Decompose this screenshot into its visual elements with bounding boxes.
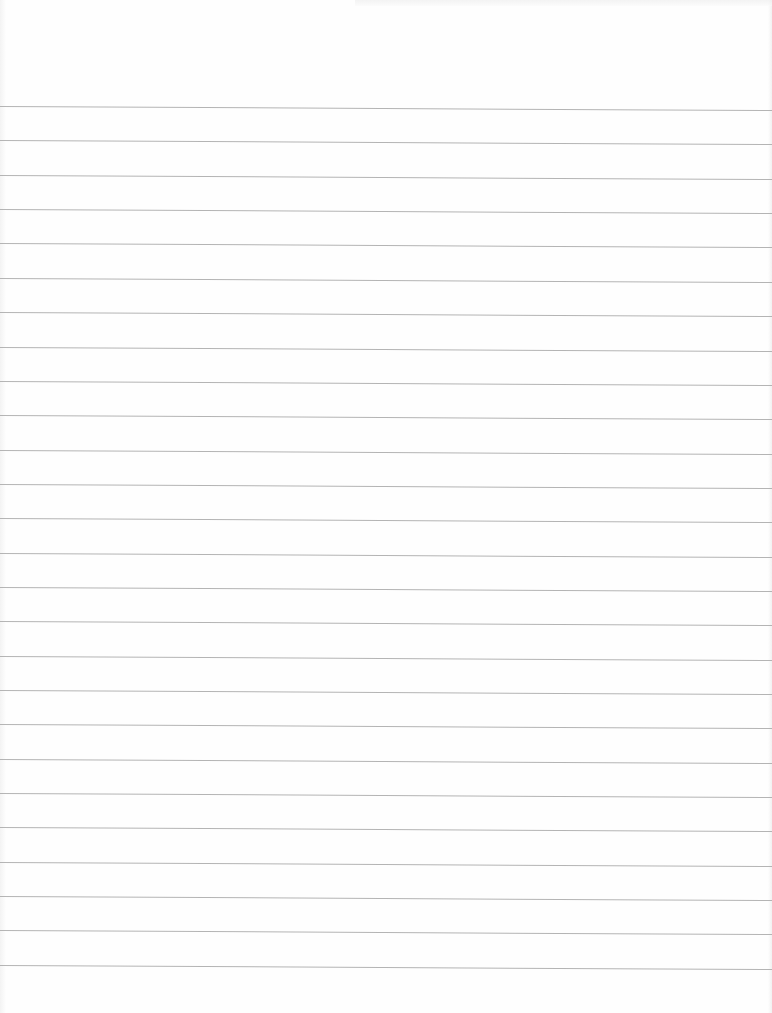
ruled-line [0, 965, 772, 970]
lined-paper-page [0, 0, 772, 1013]
ruled-line [0, 896, 772, 901]
ruled-line [0, 724, 772, 729]
ruled-line [0, 862, 772, 867]
ruled-line [0, 243, 772, 248]
ruled-line [0, 140, 772, 145]
ruled-line [0, 484, 772, 489]
ruled-line [0, 209, 772, 214]
ruled-line [0, 415, 772, 420]
ruled-line [0, 278, 772, 283]
ruled-line [0, 587, 772, 592]
ruled-line [0, 381, 772, 386]
top-bleed-through [355, 0, 772, 6]
ruled-line [0, 450, 772, 455]
ruled-line [0, 106, 772, 111]
page-right-edge [768, 0, 772, 1013]
ruled-line [0, 793, 772, 798]
ruled-line [0, 347, 772, 352]
ruled-line [0, 553, 772, 558]
ruled-line [0, 827, 772, 832]
ruled-line [0, 518, 772, 523]
ruled-line [0, 621, 772, 626]
ruled-line [0, 690, 772, 695]
ruled-line [0, 175, 772, 180]
ruled-line [0, 312, 772, 317]
ruled-line [0, 759, 772, 764]
ruled-line [0, 656, 772, 661]
ruled-line [0, 930, 772, 935]
